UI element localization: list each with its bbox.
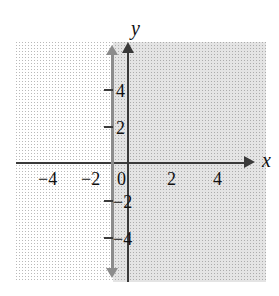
x-axis-arrow-icon — [244, 156, 255, 168]
y-tick-4 — [104, 89, 113, 91]
boundary-line-arrow-down-icon — [106, 268, 118, 278]
x-tick-label-4: 4 — [213, 170, 222, 188]
y-tick-neg4 — [104, 237, 113, 239]
x-axis-line — [16, 162, 246, 164]
x-tick-label-neg2: −2 — [81, 170, 100, 188]
x-axis-label: x — [262, 150, 271, 170]
boundary-line-arrow-up-icon — [106, 45, 118, 55]
y-tick-neg2 — [104, 200, 113, 202]
y-tick-label-neg2: −2 — [113, 193, 132, 211]
x-tick-label-neg4: −4 — [38, 170, 57, 188]
y-tick-label-neg4: −4 — [113, 230, 132, 248]
x-tick-label-0: 0 — [117, 170, 126, 188]
x-tick-label-2: 2 — [167, 170, 176, 188]
y-axis-label: y — [131, 18, 140, 38]
y-axis-arrow-icon — [122, 42, 134, 53]
y-tick-label-4: 4 — [116, 82, 125, 100]
graph-figure: 4 2 −2 −4 −4 −2 0 2 4 y x — [0, 0, 279, 296]
y-tick-label-2: 2 — [116, 119, 125, 137]
y-tick-2 — [104, 126, 113, 128]
